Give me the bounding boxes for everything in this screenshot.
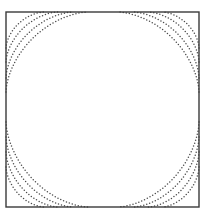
figure-background bbox=[0, 0, 206, 220]
contour-plot-canvas bbox=[0, 0, 206, 220]
figure-root bbox=[0, 0, 206, 220]
